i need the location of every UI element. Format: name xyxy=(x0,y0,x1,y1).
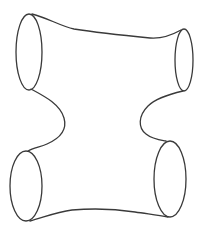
right-waist-edge xyxy=(140,91,183,141)
top-left-boundary xyxy=(16,14,42,90)
top-edge xyxy=(32,14,181,38)
bottom-left-boundary xyxy=(10,151,42,221)
surface-drawing xyxy=(0,0,200,232)
bottom-right-boundary xyxy=(154,141,186,217)
left-waist-edge xyxy=(28,89,65,151)
top-right-boundary xyxy=(175,29,193,91)
bottom-edge xyxy=(30,209,168,221)
